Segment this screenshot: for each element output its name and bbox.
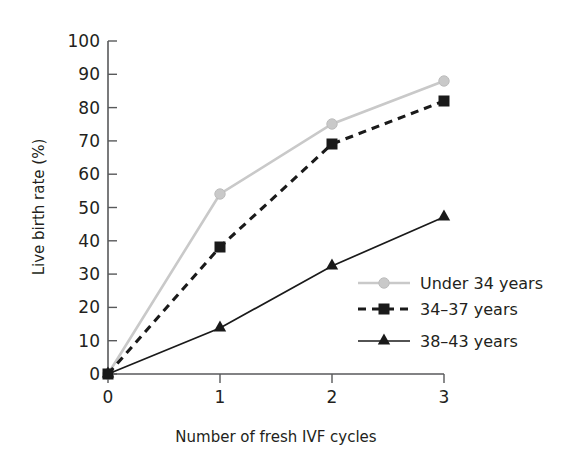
y-axis-title: Live birth rate (%) (30, 139, 48, 276)
data-point-marker (439, 96, 450, 107)
data-point-marker (215, 189, 225, 199)
legend-item-label: 34–37 years (420, 300, 518, 319)
data-point-marker (215, 242, 226, 253)
data-point-marker (439, 76, 449, 86)
x-axis-title: Number of fresh IVF cycles (175, 428, 377, 446)
y-tick-label: 60 (78, 164, 100, 184)
x-tick-label: 2 (327, 387, 338, 407)
y-tick-label: 30 (78, 264, 100, 284)
y-tick-label: 0 (89, 364, 100, 384)
data-point-marker (327, 139, 338, 150)
x-tick-label: 1 (215, 387, 226, 407)
y-tick-label: 80 (78, 98, 100, 118)
y-tick-label: 70 (78, 131, 100, 151)
y-tick-label: 10 (78, 331, 100, 351)
y-tick-label: 90 (78, 64, 100, 84)
y-tick-label: 50 (78, 198, 100, 218)
x-tick-label: 3 (439, 387, 450, 407)
y-tick-label: 100 (68, 31, 100, 51)
legend-item-label: 38–43 years (420, 332, 518, 351)
square-marker-icon (379, 304, 390, 315)
y-tick-label: 20 (78, 297, 100, 317)
chart-container: 100 90 80 70 60 50 40 30 20 10 0 0 1 2 3… (0, 0, 562, 468)
y-tick-label: 40 (78, 231, 100, 251)
line-chart: 100 90 80 70 60 50 40 30 20 10 0 0 1 2 3… (0, 0, 562, 468)
chart-legend: Under 34 years 34–37 years 38–43 years (358, 274, 543, 351)
circle-marker-icon (379, 278, 389, 288)
data-point-marker (327, 119, 337, 129)
x-tick-label: 0 (103, 387, 114, 407)
legend-item-label: Under 34 years (420, 274, 543, 293)
